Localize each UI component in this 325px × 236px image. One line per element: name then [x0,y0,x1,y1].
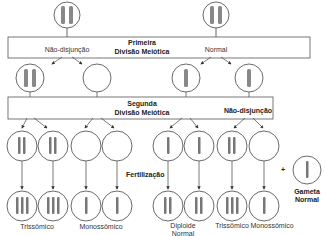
normal-label: Normal [205,46,228,53]
second-division-title-2: Divisão Meiótica [115,109,170,116]
outcome-diploid-1: Diploide [170,222,195,230]
nondisjunction-label-left: Não-disjunção [45,46,90,54]
plus-sign: + [281,166,285,173]
fertilization-label: Fertilização [126,171,165,179]
secondary-cell-3 [172,64,200,92]
secondary-cell-1 [16,64,44,92]
parent-cell-left [54,2,80,28]
first-division-title-1: Primeira [128,39,156,46]
outcome-trisomic-1: Trissômico [20,223,54,230]
gamete-label-2: Normal [295,196,319,203]
outcome-trisomic-2: Trissômico [215,222,249,229]
parent-cell-right [203,2,229,28]
first-division-title-2: Divisão Meiótica [115,48,170,55]
secondary-cell-4 [235,64,263,92]
nondisjunction-label-right: Não-disjunção [224,107,272,115]
gamete-label-1: Gameta [294,188,320,195]
outcome-monosomic-1: Monossômico [79,223,122,230]
meiosis-nondisjunction-diagram: Não-disjunção Primeira Divisão Meiótica … [0,0,325,236]
outcome-monosomic-2: Monossômico [250,222,293,229]
normal-gamete [293,156,321,184]
second-division-title-1: Segunda [127,100,157,108]
secondary-cell-2-empty [83,64,111,92]
gamete-row [7,131,279,161]
outcome-diploid-2: Normal [172,230,195,236]
